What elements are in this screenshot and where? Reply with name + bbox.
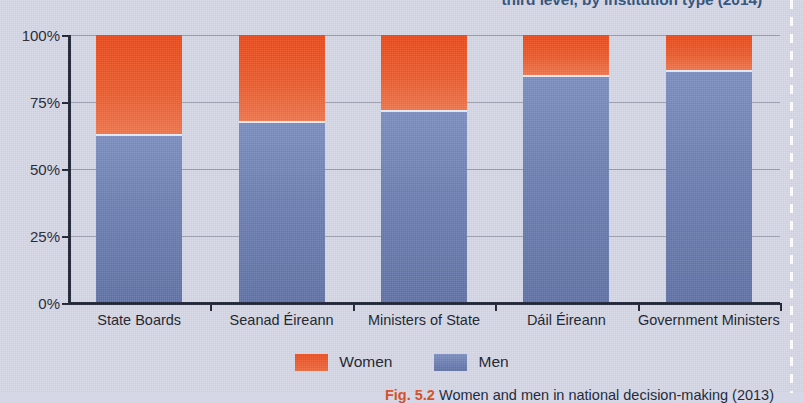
figure-caption: Fig. 5.2 Women and men in national decis… (0, 387, 804, 403)
x-axis-tick-mark (638, 303, 640, 311)
legend-item-men[interactable]: Men (434, 353, 508, 371)
bar-group[interactable] (666, 35, 752, 303)
bar-segment-men[interactable] (381, 110, 467, 303)
chart-plot-area (68, 35, 780, 303)
x-axis-category-label: State Boards (59, 312, 219, 329)
y-axis-tick-mark (62, 35, 69, 37)
legend-swatch-men (434, 354, 467, 371)
bar-segment-women[interactable] (96, 35, 182, 136)
bar-segment-women[interactable] (666, 35, 752, 72)
bar-segment-women[interactable] (239, 35, 325, 123)
legend-item-women[interactable]: Women (295, 353, 392, 371)
bar-group[interactable] (239, 35, 325, 303)
bar-group[interactable] (523, 35, 609, 303)
legend-swatch-women (295, 354, 328, 371)
bar-segment-women[interactable] (381, 35, 467, 112)
y-axis-tick-label: 0% (0, 295, 60, 312)
x-axis-line (68, 302, 780, 305)
figure-caption-text: Women and men in national decision-makin… (439, 387, 774, 403)
bar-segment-men[interactable] (666, 70, 752, 303)
x-axis-category-label: Seanad Éireann (202, 312, 362, 329)
y-axis-tick-mark (62, 169, 69, 171)
x-axis-tick-mark (353, 303, 355, 311)
x-axis-category-label: Government Ministers (629, 312, 789, 329)
y-axis-tick-mark (62, 236, 69, 238)
y-axis-tick-mark (62, 303, 69, 305)
figure-number: Fig. 5.2 (385, 387, 435, 403)
legend-label-men: Men (478, 353, 508, 371)
x-axis-category-label: Ministers of State (344, 312, 504, 329)
y-axis-tick-label: 50% (0, 161, 60, 178)
y-axis-tick-label: 100% (0, 27, 60, 44)
chart-legend: WomenMen (0, 353, 804, 371)
x-axis-tick-mark (495, 303, 497, 311)
x-axis-tick-mark (780, 303, 782, 311)
y-axis-tick-label: 75% (0, 94, 60, 111)
y-axis-tick-label: 25% (0, 228, 60, 245)
bar-group[interactable] (381, 35, 467, 303)
x-axis-category-label: Dáil Éireann (486, 312, 646, 329)
bar-segment-men[interactable] (239, 121, 325, 303)
y-axis-tick-mark (62, 102, 69, 104)
legend-label-women: Women (339, 353, 392, 371)
bar-segment-women[interactable] (523, 35, 609, 77)
page-edge-dashed-rule (790, 0, 793, 393)
figure-top-title: third level, by institution type (2014) (0, 0, 804, 9)
bar-group[interactable] (96, 35, 182, 303)
bar-segment-men[interactable] (96, 134, 182, 303)
bar-segment-men[interactable] (523, 75, 609, 303)
x-axis-tick-mark (210, 303, 212, 311)
